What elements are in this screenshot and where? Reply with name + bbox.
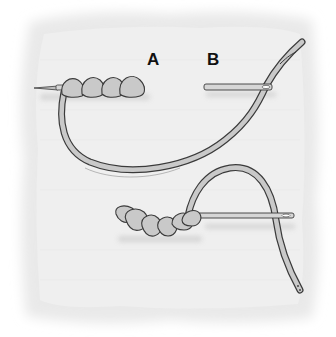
needle-b [204,84,272,90]
label-a: A [147,51,159,68]
diagram-canvas [0,0,336,337]
label-b: B [207,51,219,68]
stitch-diagram: A B [0,0,336,337]
needle-bottom [198,213,294,218]
needle-b-eye [262,85,270,88]
needle-bottom-shaft [198,213,294,218]
needle-bottom-eye [282,214,290,217]
